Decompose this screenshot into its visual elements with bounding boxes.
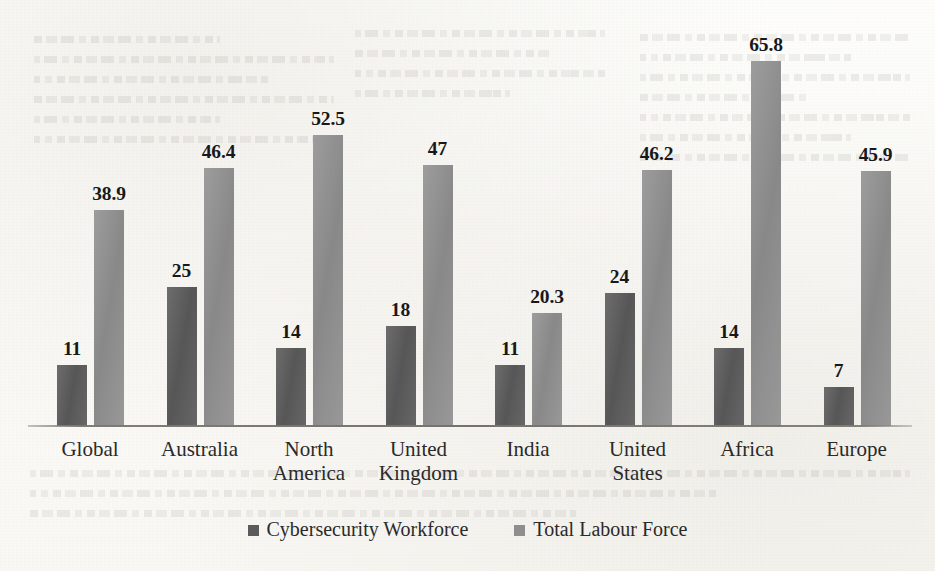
plot-area: 1138.92546.41452.518471120.32446.21465.8… (28, 14, 910, 426)
legend-item: Cybersecurity Workforce (248, 518, 469, 541)
bar (751, 61, 781, 426)
bar-group: 1847 (386, 14, 456, 426)
legend-swatch-light (514, 525, 525, 536)
x-axis-label-europe: Europe (782, 438, 932, 462)
bar-value-label: 20.3 (511, 286, 583, 308)
bar-value-label: 47 (402, 138, 474, 160)
bar (386, 326, 416, 426)
bar (605, 293, 635, 426)
x-axis-line (28, 425, 912, 427)
bar (642, 170, 672, 426)
legend-label: Cybersecurity Workforce (267, 518, 469, 541)
bar (94, 210, 124, 426)
bar (495, 365, 525, 426)
bar-value-label: 52.5 (292, 108, 364, 130)
bar (824, 387, 854, 426)
bar-value-label: 38.9 (73, 183, 145, 205)
bar (532, 313, 562, 426)
bar-value-label: 45.9 (840, 144, 912, 166)
bar-group: 745.9 (824, 14, 894, 426)
bar-group: 1452.5 (276, 14, 346, 426)
bar (204, 168, 234, 426)
legend-swatch-dark (248, 525, 259, 536)
bar-value-label: 46.4 (183, 141, 255, 163)
bar (714, 348, 744, 426)
bar (276, 348, 306, 426)
bar-group: 2546.4 (167, 14, 237, 426)
chart-legend: Cybersecurity WorkforceTotal Labour Forc… (0, 518, 935, 541)
bar-value-label: 46.2 (621, 143, 693, 165)
bar (313, 135, 343, 426)
bar (167, 287, 197, 426)
bar-group: 1465.8 (714, 14, 784, 426)
bar-value-label: 65.8 (730, 34, 802, 56)
bar-group: 1120.3 (495, 14, 565, 426)
legend-item: Total Labour Force (514, 518, 687, 541)
bar (423, 165, 453, 426)
grouped-bar-chart: 1138.92546.41452.518471120.32446.21465.8… (0, 0, 935, 571)
bar-group: 1138.9 (57, 14, 127, 426)
legend-label: Total Labour Force (533, 518, 687, 541)
bar (57, 365, 87, 426)
bar (861, 171, 891, 426)
bar-group: 2446.2 (605, 14, 675, 426)
